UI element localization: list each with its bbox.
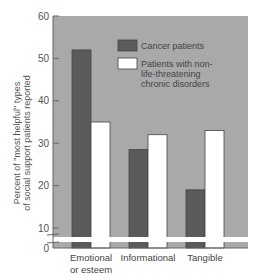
bar-chronic-2 xyxy=(205,130,224,248)
legend-label: Cancer patients xyxy=(141,41,205,51)
y-tick-label: 10 xyxy=(38,223,50,234)
y-tick-label: 20 xyxy=(38,180,50,191)
bar-chronic-0 xyxy=(91,122,110,248)
y-axis-label-line: of social support patients reported xyxy=(22,75,32,211)
y-tick-label: 0 xyxy=(43,243,49,254)
legend-label: life-threatening xyxy=(141,69,201,79)
legend-label: chronic disorders xyxy=(141,79,210,89)
y-axis-label: Percent of "most helpful" typesof social… xyxy=(12,75,32,211)
x-category-label: Tangible xyxy=(187,252,222,263)
bar-chart: 0102030405060 Percent of "most helpful" … xyxy=(0,0,255,278)
y-tick-label: 40 xyxy=(38,95,50,106)
y-tick-label: 30 xyxy=(38,138,50,149)
y-axis-label-line: Percent of "most helpful" types xyxy=(12,81,22,204)
x-category-label: or esteem xyxy=(70,264,112,275)
legend-label: Patients with non- xyxy=(141,59,213,69)
bar-cancer-1 xyxy=(129,150,148,248)
y-tick-label: 50 xyxy=(38,53,50,64)
bar-cancer-0 xyxy=(72,50,91,248)
legend-swatch xyxy=(118,58,137,69)
bar-chronic-1 xyxy=(148,135,167,248)
x-category-labels: Emotionalor esteemInformationalTangible xyxy=(70,252,223,275)
axis-break-band xyxy=(44,237,248,242)
x-category-label: Informational xyxy=(121,252,176,263)
legend-swatch xyxy=(118,40,137,51)
y-tick-label: 60 xyxy=(38,11,50,22)
x-category-label: Emotional xyxy=(70,252,112,263)
